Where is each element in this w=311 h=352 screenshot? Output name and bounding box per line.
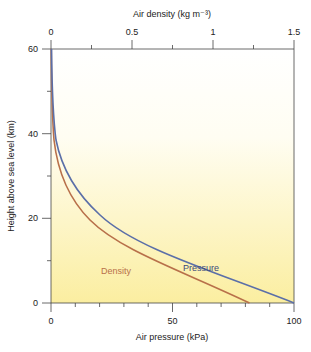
top-axis-title: Air density (kg m⁻³): [133, 9, 211, 19]
bottom-axis-ticks: [51, 303, 294, 312]
top-tick-0: 0: [48, 27, 53, 37]
left-tick-20: 20: [28, 213, 38, 223]
bottom-tick-0: 0: [48, 316, 53, 326]
left-axis-title: Height above sea level (km): [6, 120, 16, 232]
bottom-tick-100: 100: [286, 316, 301, 326]
pressure-label: Pressure: [183, 263, 219, 273]
top-tick-1-5: 1.5: [288, 27, 301, 37]
atmosphere-chart: 0 0.5 1 1.5 Air density (kg m⁻³) 0 50 10…: [0, 0, 311, 352]
top-tick-0-5: 0.5: [126, 27, 139, 37]
left-tick-60: 60: [28, 44, 38, 54]
bottom-tick-50: 50: [167, 316, 177, 326]
plot-area: [51, 49, 294, 303]
left-tick-0: 0: [33, 298, 38, 308]
left-axis-ticks: [42, 49, 51, 303]
top-axis-ticks: [51, 40, 294, 49]
bottom-axis-title: Air pressure (kPa): [136, 332, 209, 342]
top-tick-1: 1: [210, 27, 215, 37]
density-label: Density: [101, 266, 132, 276]
left-tick-40: 40: [28, 129, 38, 139]
